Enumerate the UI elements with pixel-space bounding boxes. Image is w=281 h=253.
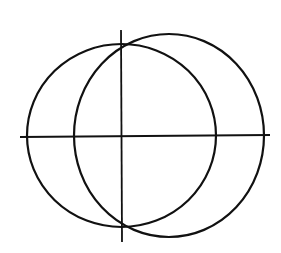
horizontal-axis <box>20 135 270 137</box>
diagram-canvas <box>0 0 281 253</box>
vertical-axis <box>121 30 122 242</box>
